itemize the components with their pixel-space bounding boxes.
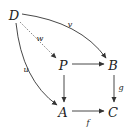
label-u: u (23, 66, 28, 74)
label-v: v (68, 21, 73, 29)
arrow-v-d-to-b (22, 14, 106, 58)
node-p: P (59, 59, 68, 72)
node-d: D (9, 9, 19, 22)
node-c: C (108, 106, 118, 119)
label-w: w (37, 35, 44, 43)
pullback-diagram: D P B A C v w u g f (0, 0, 129, 133)
node-b: B (108, 59, 118, 72)
label-g: g (118, 84, 123, 92)
node-a: A (58, 106, 67, 119)
label-f: f (87, 119, 90, 127)
